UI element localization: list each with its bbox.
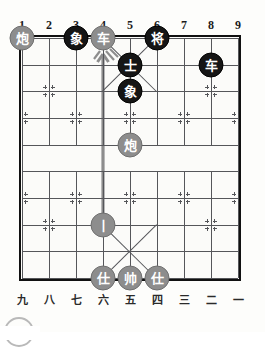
piece-label: 将 — [151, 32, 164, 45]
column-hanzi-9: 一 — [228, 291, 248, 307]
board-vline-top — [103, 38, 104, 145]
star-point — [178, 112, 191, 125]
column-hanzi-1: 九 — [12, 291, 32, 307]
piece-label: 炮 — [16, 32, 29, 45]
general-black-c6[interactable]: 将 — [145, 26, 170, 51]
star-point — [205, 218, 218, 231]
column-number-8: 8 — [202, 18, 220, 33]
chariot-grey-c4[interactable]: 车 — [91, 26, 116, 51]
board-vline-top — [184, 38, 185, 145]
column-hanzi-8: 二 — [201, 291, 221, 307]
star-point — [70, 192, 83, 205]
advisor-grey-c4[interactable]: 仕 — [91, 266, 116, 291]
piece-label: 帅 — [124, 272, 137, 285]
stray-arc-mask — [0, 326, 40, 340]
piece-label: 车 — [97, 32, 110, 45]
board-vline — [238, 38, 239, 278]
piece-label: 象 — [124, 85, 137, 98]
star-point — [124, 192, 137, 205]
piece-label: 仕 — [151, 272, 164, 285]
board-vline-top — [76, 38, 77, 145]
piece-label: 车 — [205, 58, 218, 71]
star-point — [205, 85, 218, 98]
column-hanzi-2: 八 — [39, 291, 59, 307]
elephant-black-c3[interactable]: 象 — [64, 26, 89, 51]
column-number-2: 2 — [40, 18, 58, 33]
board-vline-bottom — [76, 171, 77, 278]
star-point — [43, 85, 56, 98]
column-number-9: 9 — [229, 18, 247, 33]
board-vline — [22, 38, 23, 278]
column-number-7: 7 — [175, 18, 193, 33]
piece-label: 仕 — [97, 272, 110, 285]
column-hanzi-6: 四 — [147, 291, 167, 307]
board-vline-top — [157, 38, 158, 145]
star-point — [232, 192, 245, 205]
cannon-grey-c1[interactable]: 炮 — [10, 26, 35, 51]
column-hanzi-3: 七 — [66, 291, 86, 307]
star-point — [178, 192, 191, 205]
star-point — [70, 112, 83, 125]
elephant-black-c5[interactable]: 象 — [118, 79, 143, 104]
star-point — [43, 218, 56, 231]
advisor-black-c5[interactable]: 士 — [118, 52, 143, 77]
piece-label: 象 — [70, 32, 83, 45]
chariot-black-c8[interactable]: 车 — [199, 52, 224, 77]
general-grey-c5[interactable]: 帅 — [118, 266, 143, 291]
column-hanzi-4: 六 — [93, 291, 113, 307]
piece-label: 炮 — [124, 138, 137, 151]
column-number-5: 5 — [121, 18, 139, 33]
piece-label: 丨 — [97, 218, 110, 231]
star-point — [16, 112, 29, 125]
piece-label: 士 — [124, 58, 137, 71]
star-point — [124, 112, 137, 125]
star-point — [16, 192, 29, 205]
soldier-grey-c4[interactable]: 丨 — [91, 212, 116, 237]
board-vline-bottom — [130, 171, 131, 278]
column-hanzi-7: 三 — [174, 291, 194, 307]
star-point — [232, 112, 245, 125]
advisor-grey-c6[interactable]: 仕 — [145, 266, 170, 291]
cannon-grey-c5[interactable]: 炮 — [118, 132, 143, 157]
board-vline-bottom — [184, 171, 185, 278]
column-hanzi-5: 五 — [120, 291, 140, 307]
